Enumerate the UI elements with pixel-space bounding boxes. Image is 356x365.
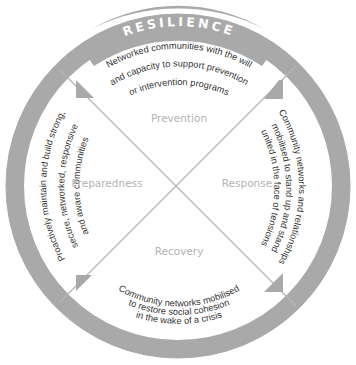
quadrant-label-response: Response [222, 177, 272, 189]
resilience-cycle-diagram: RESILIENCE Networked communities with th… [0, 0, 356, 365]
arrow-top-right-icon [264, 80, 283, 99]
quadrant-label-recovery: Recovery [155, 245, 204, 257]
arrow-top-left-icon [76, 80, 94, 98]
svg-text:or intervention programs: or intervention programs [127, 77, 231, 98]
arrow-bottom-left-icon [76, 275, 92, 291]
arrow-bottom-right-icon [264, 273, 283, 292]
quadrant-label-prevention: Prevention [151, 112, 207, 124]
quadrant-label-preparedness: Preparedness [71, 177, 142, 189]
recovery-description: Community networks mobilised to restore … [117, 283, 241, 326]
